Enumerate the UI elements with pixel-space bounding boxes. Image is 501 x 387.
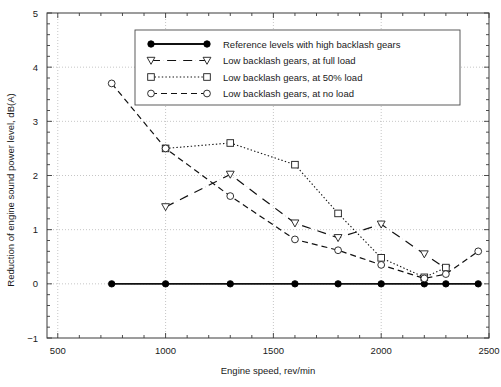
data-point-marker <box>335 210 342 217</box>
data-point-marker <box>292 281 298 287</box>
data-point-marker <box>292 236 299 243</box>
data-point-marker <box>162 281 168 287</box>
y-axis-title: Reduction of engine sound power level, d… <box>5 93 16 286</box>
data-point-marker <box>204 74 211 81</box>
data-point-marker <box>377 221 385 228</box>
data-point-marker <box>335 281 341 287</box>
data-point-marker <box>108 80 115 87</box>
legend-label: Low backlash gears, at full load <box>223 55 356 66</box>
data-point-marker <box>442 271 449 278</box>
x-tick-label: 1000 <box>155 345 176 356</box>
legend-label: Low backlash gears, at no load <box>223 88 354 99</box>
data-point-marker <box>162 145 169 152</box>
x-tick-label: 2000 <box>371 345 392 356</box>
series-line <box>166 143 446 277</box>
data-point-marker <box>226 171 234 178</box>
data-point-marker <box>291 220 299 227</box>
data-point-marker <box>378 255 385 262</box>
y-tick-label: 0 <box>33 278 38 289</box>
data-point-marker <box>162 204 170 211</box>
series-line <box>166 174 446 268</box>
data-point-marker <box>227 193 234 200</box>
series-line <box>112 83 479 278</box>
line-chart: −10123455001000150020002500 Reference le… <box>0 0 501 387</box>
data-point-marker <box>443 264 450 271</box>
y-tick-label: 5 <box>33 8 38 19</box>
data-point-marker <box>421 275 428 282</box>
x-tick-label: 1500 <box>263 345 284 356</box>
y-tick-label: 4 <box>33 62 38 73</box>
data-point-marker <box>148 74 155 81</box>
chart-legend: Reference levels with high backlash gear… <box>135 30 460 105</box>
data-point-marker <box>378 281 384 287</box>
x-tick-label: 2500 <box>478 345 499 356</box>
data-point-marker <box>292 161 299 168</box>
legend-label: Reference levels with high backlash gear… <box>223 39 401 50</box>
data-point-marker <box>108 281 114 287</box>
y-tick-label: 3 <box>33 116 38 127</box>
data-point-marker <box>443 281 449 287</box>
data-point-marker <box>420 251 428 258</box>
data-point-marker <box>334 235 342 242</box>
data-point-marker <box>475 248 482 255</box>
data-point-marker <box>148 41 154 47</box>
y-tick-label: 1 <box>33 224 38 235</box>
y-tick-label: 2 <box>33 170 38 181</box>
data-series <box>108 80 481 287</box>
figure-container: −10123455001000150020002500 Reference le… <box>0 0 501 387</box>
x-axis-title: Engine speed, rev/min <box>221 365 316 376</box>
series-1 <box>162 171 450 272</box>
legend-label: Low backlash gears, at 50% load <box>223 72 362 83</box>
series-2 <box>162 140 449 281</box>
data-point-marker <box>148 90 155 97</box>
data-point-marker <box>227 281 233 287</box>
data-point-marker <box>204 90 211 97</box>
data-point-marker <box>227 140 234 147</box>
data-point-marker <box>335 247 342 254</box>
data-point-marker <box>378 261 385 268</box>
data-point-marker <box>475 281 481 287</box>
x-tick-label: 500 <box>50 345 66 356</box>
data-point-marker <box>204 41 210 47</box>
y-tick-label: −1 <box>27 333 38 344</box>
